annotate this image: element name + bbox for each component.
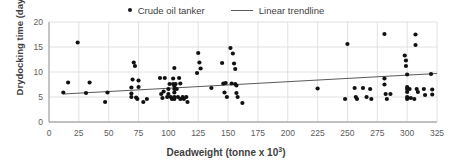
trendline: [63, 74, 437, 95]
y-axis-tick-label: 10: [34, 67, 44, 77]
x-axis-tick-label: 0: [47, 128, 52, 138]
scatter-point: [234, 91, 238, 95]
scatter-point: [225, 95, 229, 99]
scatter-point: [423, 93, 427, 97]
scatter-point: [105, 90, 109, 94]
scatter-point: [141, 100, 145, 104]
scatter-point: [195, 71, 199, 75]
scatter-point: [430, 87, 434, 91]
scatter-chart-figure: Crude oil tanker Linear trendline Drydoc…: [0, 0, 452, 166]
x-axis-tick-label: 125: [191, 128, 205, 138]
scatter-point: [171, 76, 175, 80]
scatter-point: [345, 42, 349, 46]
scatter-point: [412, 97, 416, 101]
scatter-point: [76, 40, 80, 44]
scatter-point: [343, 97, 347, 101]
scatter-point: [230, 81, 234, 85]
x-axis-title-main: Deadweight (tonne x 10: [167, 147, 279, 158]
scatter-point: [228, 46, 232, 50]
x-axis-tick-label: 100: [161, 128, 175, 138]
scatter-point: [382, 82, 386, 86]
scatter-point: [232, 61, 236, 65]
scatter-point: [84, 91, 88, 95]
y-axis-tick-label: 15: [34, 42, 44, 52]
scatter-point: [185, 100, 189, 104]
x-axis-tick-label: 50: [104, 128, 114, 138]
scatter-point: [173, 82, 177, 86]
scatter-point: [130, 77, 134, 81]
x-axis-tick-label: 175: [251, 128, 265, 138]
x-axis-tick-label: 250: [340, 128, 354, 138]
scatter-point: [413, 43, 417, 47]
scatter-point: [369, 97, 373, 101]
scatter-point: [240, 101, 244, 105]
scatter-point: [405, 72, 409, 76]
scatter-point: [353, 86, 357, 90]
scatter-point: [135, 97, 139, 101]
scatter-point: [136, 85, 140, 89]
scatter-point: [422, 87, 426, 91]
scatter-point: [220, 61, 224, 65]
scatter-point: [409, 96, 413, 100]
scatter-point: [66, 80, 70, 84]
x-axis-tick-label: 25: [74, 128, 84, 138]
scatter-point: [364, 95, 368, 99]
scatter-point: [172, 66, 176, 70]
scatter-point: [103, 100, 107, 104]
x-axis-tick-label: 225: [311, 128, 325, 138]
scatter-point: [166, 87, 170, 91]
scatter-point: [388, 92, 392, 96]
x-axis-tick-label: 300: [400, 128, 414, 138]
scatter-point: [163, 76, 167, 80]
scatter-point: [233, 67, 237, 71]
scatter-point: [222, 90, 226, 94]
scatter-point: [385, 97, 389, 101]
scatter-point: [413, 32, 417, 36]
plot-area: 0510152002550751001251501752002252502753…: [0, 0, 452, 145]
scatter-point: [355, 97, 359, 101]
scatter-point: [382, 32, 386, 36]
y-axis-tick-label: 5: [38, 92, 43, 102]
scatter-point: [158, 76, 162, 80]
x-axis-tick-label: 275: [370, 128, 384, 138]
scatter-point: [175, 87, 179, 91]
scatter-point: [361, 86, 365, 90]
scatter-point: [231, 51, 235, 55]
scatter-point: [167, 82, 171, 86]
x-axis-title: Deadweight (tonne x 103): [0, 146, 452, 158]
scatter-point: [87, 80, 91, 84]
scatter-point: [178, 81, 182, 85]
scatter-point: [197, 60, 201, 64]
scatter-point: [382, 76, 386, 80]
x-axis-tick-label: 325: [430, 128, 444, 138]
scatter-point: [136, 78, 140, 82]
scatter-point: [316, 86, 320, 90]
scatter-point: [184, 95, 188, 99]
scatter-point: [416, 90, 420, 94]
scatter-point: [172, 97, 176, 101]
scatter-point: [236, 95, 240, 99]
x-axis-tick-label: 150: [221, 128, 235, 138]
y-axis-tick-label: 0: [38, 117, 43, 127]
scatter-point: [160, 96, 164, 100]
scatter-point: [224, 81, 228, 85]
x-axis-tick-label: 200: [281, 128, 295, 138]
scatter-point: [368, 87, 372, 91]
scatter-point: [384, 92, 388, 96]
scatter-point: [234, 83, 238, 87]
scatter-point: [162, 89, 166, 93]
scatter-point: [145, 97, 149, 101]
scatter-point: [177, 76, 181, 80]
x-axis-title-tail: ): [282, 147, 285, 158]
scatter-point: [209, 86, 213, 90]
scatter-point: [403, 53, 407, 57]
scatter-point: [61, 90, 65, 94]
scatter-point: [196, 51, 200, 55]
x-axis-tick-label: 75: [134, 128, 144, 138]
scatter-point: [172, 90, 176, 94]
scatter-point: [199, 66, 203, 70]
scatter-point: [129, 91, 133, 95]
scatter-point: [404, 58, 408, 62]
scatter-point: [129, 85, 133, 89]
scatter-point: [430, 92, 434, 96]
